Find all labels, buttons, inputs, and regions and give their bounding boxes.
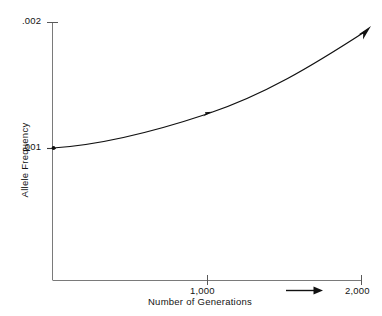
chart-figure: .002 .001 1,000 2,000 Number of Generati… [0,0,382,316]
allele-frequency-curve [53,31,366,148]
x-axis-title: Number of Generations [148,296,252,307]
x-axis-tick-label-2000: 2,000 [345,285,370,296]
y-axis-title: Allele Frequency [19,123,30,198]
chart-plot-area [0,0,382,316]
y-axis-tick-label-top: .002 [22,15,41,26]
x-axis-tick-label-1000: 1,000 [190,285,215,296]
direction-arrowhead-icon [314,286,324,294]
curve-end-arrowhead-icon [359,26,372,40]
